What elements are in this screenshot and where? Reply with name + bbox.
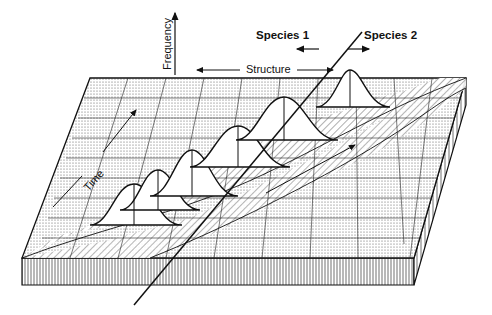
structure-axis-label: Structure — [246, 63, 291, 75]
diagram-canvas — [0, 0, 492, 315]
species-2-label: Species 2 — [364, 29, 417, 41]
slab-front-face — [22, 258, 414, 285]
species-1-label: Species 1 — [256, 29, 309, 41]
frequency-axis-label: Frequency — [161, 18, 173, 70]
